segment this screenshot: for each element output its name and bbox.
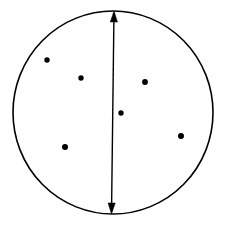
arrow-shaft (112, 13, 114, 212)
arrowhead-bottom (108, 203, 115, 214)
point-3 (142, 79, 148, 85)
point-6 (178, 133, 184, 139)
points-layer (44, 57, 184, 150)
arrowhead-top (110, 11, 117, 22)
arrow-layer (108, 11, 117, 214)
point-2 (78, 75, 83, 80)
point-5 (62, 144, 68, 150)
figure-canvas (0, 0, 226, 228)
point-4 (118, 110, 123, 115)
point-1 (44, 57, 49, 62)
circle-diagram-svg (0, 0, 226, 228)
